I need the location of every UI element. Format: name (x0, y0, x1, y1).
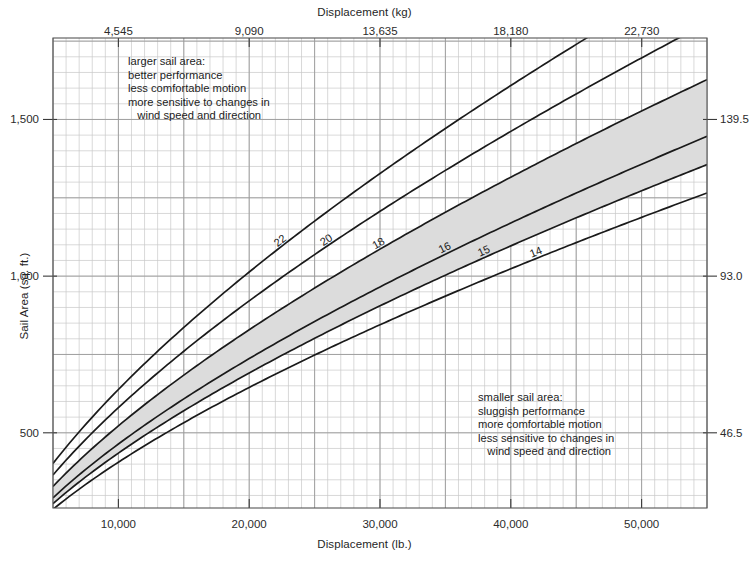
left-tick-label-1: 1,000 (10, 270, 39, 282)
bottom-tick-label-4: 50,000 (624, 518, 659, 530)
left-tick-label-0: 1,500 (10, 113, 39, 125)
bottom-tick-label-0: 10,000 (101, 518, 136, 530)
right-tick-label-2: 46.5 (720, 427, 742, 439)
right-tick-label-0: 139.5 (720, 113, 749, 125)
right-tick-label-1: 93.0 (720, 270, 742, 282)
bottom-tick-label-1: 20,000 (232, 518, 267, 530)
annotation-larger-sail-area: larger sail area: better performance les… (128, 55, 270, 123)
top-tick-label-1: 9,090 (235, 25, 264, 37)
top-tick-label-2: 13,635 (362, 25, 397, 37)
bottom-tick-label-3: 40,000 (493, 518, 528, 530)
top-tick-label-0: 4,545 (104, 25, 133, 37)
top-tick-label-4: 22,730 (624, 25, 659, 37)
annotation-smaller-sail-area: smaller sail area: sluggish performance … (478, 391, 614, 459)
bottom-tick-label-2: 30,000 (362, 518, 397, 530)
top-tick-label-3: 18,180 (493, 25, 528, 37)
left-tick-label-2: 500 (20, 427, 39, 439)
